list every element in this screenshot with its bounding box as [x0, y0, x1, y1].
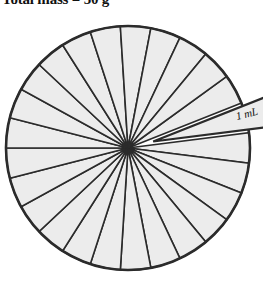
pie-diagram-figure: Total mass = 50 g 1 mL [0, 0, 263, 284]
page-title: Total mass = 50 g [2, 0, 109, 8]
pie-chart-svg: 1 mL [0, 0, 263, 284]
